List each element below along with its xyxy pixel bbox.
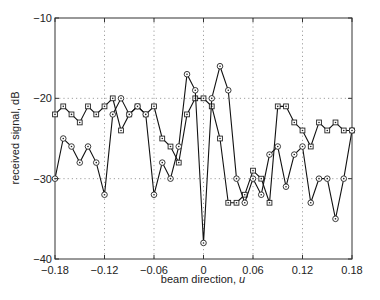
marker-dot xyxy=(104,194,106,196)
marker-dot xyxy=(112,98,114,100)
marker-dot xyxy=(326,130,328,132)
marker-dot xyxy=(269,202,271,204)
marker-dot xyxy=(161,162,163,164)
series-circles xyxy=(52,63,355,245)
grid-lines xyxy=(55,18,352,259)
plot-frame xyxy=(55,18,352,259)
marker-dot xyxy=(318,178,320,180)
x-axis-label: beam direction, u xyxy=(161,273,245,285)
marker-dot xyxy=(285,186,287,188)
marker-dot xyxy=(112,114,114,116)
marker-dot xyxy=(244,194,246,196)
marker-dot xyxy=(252,170,254,172)
marker-dot xyxy=(79,162,81,164)
marker-dot xyxy=(178,162,180,164)
marker-dot xyxy=(343,178,345,180)
x-tick-label: −0.18 xyxy=(41,264,69,276)
marker-dot xyxy=(71,114,73,116)
marker-dot xyxy=(120,130,122,132)
marker-dot xyxy=(302,146,304,148)
marker-dot xyxy=(310,202,312,204)
y-tick-label: −40 xyxy=(33,253,52,265)
marker-dot xyxy=(318,122,320,124)
marker-dot xyxy=(302,130,304,132)
marker-dot xyxy=(236,178,238,180)
marker-dot xyxy=(211,98,213,100)
y-axis-label: received signal, dB xyxy=(9,92,21,185)
marker-dot xyxy=(227,202,229,204)
marker-dot xyxy=(335,122,337,124)
marker-dot xyxy=(128,114,130,116)
marker-dot xyxy=(178,146,180,148)
marker-dot xyxy=(87,146,89,148)
marker-dot xyxy=(293,122,295,124)
marker-dot xyxy=(203,242,205,244)
x-tick-label: −0.12 xyxy=(91,264,119,276)
marker-dot xyxy=(95,114,97,116)
y-tick-label: −20 xyxy=(33,92,52,104)
marker-dot xyxy=(71,146,73,148)
marker-dot xyxy=(161,138,163,140)
marker-dot xyxy=(285,106,287,108)
marker-dot xyxy=(277,146,279,148)
marker-dot xyxy=(194,90,196,92)
series-group xyxy=(52,63,355,245)
marker-dot xyxy=(62,138,64,140)
marker-dot xyxy=(343,130,345,132)
y-tick-label: −10 xyxy=(33,12,52,24)
marker-dot xyxy=(277,106,279,108)
marker-dot xyxy=(335,218,337,220)
marker-dot xyxy=(104,106,106,108)
marker-dot xyxy=(79,122,81,124)
marker-dot xyxy=(219,65,221,67)
marker-dot xyxy=(95,162,97,164)
marker-dot xyxy=(252,178,254,180)
y-tick-label: −30 xyxy=(33,173,52,185)
marker-dot xyxy=(236,202,238,204)
marker-dot xyxy=(244,202,246,204)
marker-dot xyxy=(87,106,89,108)
marker-dot xyxy=(260,194,262,196)
x-tick-label: 0.06 xyxy=(242,264,263,276)
marker-dot xyxy=(219,138,221,140)
marker-dot xyxy=(203,98,205,100)
marker-dot xyxy=(186,114,188,116)
marker-dot xyxy=(153,194,155,196)
marker-dot xyxy=(260,178,262,180)
marker-dot xyxy=(62,106,64,108)
chart: −0.18−0.12−0.0600.060.120.18 −10−20−30−4… xyxy=(0,0,380,300)
marker-dot xyxy=(153,106,155,108)
marker-dot xyxy=(54,114,56,116)
marker-dot xyxy=(227,90,229,92)
marker-dot xyxy=(310,146,312,148)
marker-dot xyxy=(269,154,271,156)
marker-dot xyxy=(145,114,147,116)
marker-dot xyxy=(137,106,139,108)
y-axis-ticks: −10−20−30−40 xyxy=(33,12,352,265)
marker-dot xyxy=(351,130,353,132)
marker-dot xyxy=(170,178,172,180)
marker-dot xyxy=(326,178,328,180)
marker-dot xyxy=(186,73,188,75)
marker-dot xyxy=(120,98,122,100)
marker-dot xyxy=(293,154,295,156)
x-tick-label: 0.18 xyxy=(341,264,362,276)
marker-dot xyxy=(170,146,172,148)
x-tick-label: 0.12 xyxy=(292,264,313,276)
